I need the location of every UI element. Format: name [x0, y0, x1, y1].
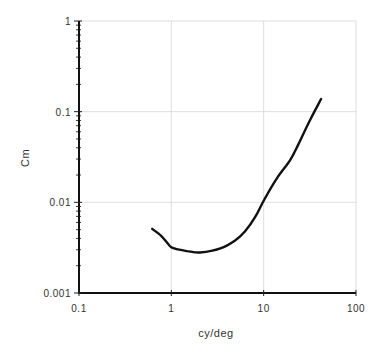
y-tick-label: 1	[65, 16, 71, 27]
chart: 0.1110100 0.0010.010.11 cy/deg Cm	[0, 0, 381, 359]
x-tick-label: 100	[347, 303, 365, 314]
y-tick-label: 0.01	[50, 197, 71, 208]
x-tick-label: 10	[258, 303, 270, 314]
data-line-cm	[152, 99, 321, 253]
y-axis-label: Cm	[19, 149, 31, 167]
x-axis-label: cy/deg	[198, 327, 233, 339]
y-tick-label: 0.1	[56, 107, 71, 118]
x-tick-label: 0.1	[71, 303, 86, 314]
y-tick-label: 0.001	[43, 288, 71, 299]
y-axis-ticks: 0.0010.010.11	[43, 16, 82, 299]
x-tick-label: 1	[168, 303, 174, 314]
gridlines	[79, 21, 356, 293]
